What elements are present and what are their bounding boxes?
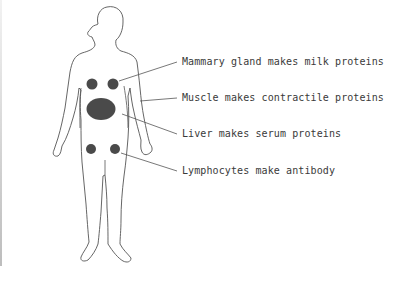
label-liver: Liver makes serum proteins: [182, 128, 341, 139]
liver: [87, 98, 116, 120]
leader-line-liver: [122, 114, 177, 134]
mammary-gland-right: [108, 79, 119, 90]
leader-line-lymphocytes: [121, 153, 177, 171]
lymph-node-right: [110, 144, 120, 154]
leader-line-mammary: [119, 62, 177, 81]
body-outline: [53, 7, 152, 262]
mammary-gland-left: [87, 79, 98, 90]
lymph-node-left: [86, 144, 96, 154]
label-lymphocytes: Lymphocytes make antibody: [182, 165, 335, 176]
body-diagram: [0, 0, 405, 284]
label-mammary-gland: Mammary gland makes milk proteins: [182, 56, 384, 67]
leader-line-muscle: [140, 98, 177, 101]
label-muscle: Muscle makes contractile proteins: [182, 92, 384, 103]
inner-arm-right: [124, 86, 128, 128]
